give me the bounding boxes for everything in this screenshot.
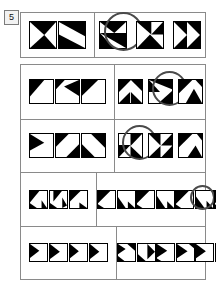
answer-option-c[interactable] xyxy=(178,79,203,104)
pattern-tile xyxy=(55,133,80,158)
answer-option-b[interactable] xyxy=(148,133,173,158)
pattern-tile xyxy=(215,243,216,262)
pattern-tile xyxy=(29,243,48,262)
pattern-tile xyxy=(214,190,216,209)
worksheet-page: 5 xyxy=(0,0,216,292)
stem-tile-group xyxy=(29,243,108,262)
puzzle-row-row-3 xyxy=(21,119,205,173)
answer-option-c[interactable] xyxy=(173,21,201,49)
pattern-tile xyxy=(118,79,143,104)
pattern-tile xyxy=(137,243,156,262)
pattern-tile xyxy=(136,21,164,49)
pattern-tile xyxy=(156,190,175,209)
pattern-tile xyxy=(136,190,155,209)
row-stem-area xyxy=(21,13,95,57)
answer-option-b[interactable] xyxy=(136,190,175,209)
puzzle-row-row-2 xyxy=(21,65,205,119)
puzzle-row-row-5 xyxy=(21,226,205,280)
answer-option-a[interactable] xyxy=(117,243,156,262)
answer-option-a[interactable] xyxy=(118,79,143,104)
pattern-tile xyxy=(69,243,88,262)
row-options-area xyxy=(115,120,205,173)
pattern-tile xyxy=(118,133,143,158)
stem-tile-group xyxy=(29,21,86,49)
row-options-area xyxy=(97,173,216,226)
row-stem-area xyxy=(21,120,115,173)
answer-option-b[interactable] xyxy=(156,243,195,262)
pattern-tile xyxy=(55,79,80,104)
answer-option-c[interactable] xyxy=(175,190,214,209)
stem-tile-group xyxy=(29,79,106,104)
pattern-tile xyxy=(178,133,203,158)
pattern-tile xyxy=(49,243,68,262)
pattern-tile xyxy=(58,21,86,49)
row-options-area xyxy=(117,227,216,280)
pattern-tile xyxy=(81,133,106,158)
pattern-tile xyxy=(69,190,88,209)
pattern-tile xyxy=(97,190,116,209)
pattern-tile xyxy=(89,243,108,262)
pattern-tile xyxy=(195,190,214,209)
pattern-tile xyxy=(173,21,201,49)
puzzle-row-row-4 xyxy=(21,172,205,226)
pattern-tile xyxy=(99,21,127,49)
pattern-tile xyxy=(81,79,106,104)
pattern-tile xyxy=(117,190,136,209)
answer-option-a[interactable] xyxy=(99,21,127,49)
stem-tile-group xyxy=(29,190,88,209)
pattern-tile xyxy=(29,79,54,104)
question-panel-row-1 xyxy=(20,12,206,58)
answer-option-b[interactable] xyxy=(148,79,173,104)
pattern-tile xyxy=(156,243,175,262)
row-options-area xyxy=(95,13,205,57)
pattern-tile xyxy=(148,79,173,104)
pattern-tile xyxy=(176,243,195,262)
pattern-tile xyxy=(49,190,68,209)
row-stem-area xyxy=(21,65,115,119)
answer-option-c[interactable] xyxy=(195,243,216,262)
pattern-tile xyxy=(29,190,48,209)
pattern-tile xyxy=(178,79,203,104)
row-options-area xyxy=(115,65,205,119)
answer-option-c[interactable] xyxy=(178,133,203,158)
answer-option-a[interactable] xyxy=(97,190,136,209)
pattern-tile xyxy=(175,190,194,209)
answer-option-a[interactable] xyxy=(118,133,143,158)
pattern-tile xyxy=(117,243,136,262)
pattern-tile xyxy=(29,133,54,158)
item-number-badge: 5 xyxy=(4,10,19,25)
row-stem-area xyxy=(21,227,117,280)
pattern-tile xyxy=(195,243,214,262)
puzzle-row-row-1 xyxy=(21,13,205,57)
answer-option-d[interactable] xyxy=(214,190,216,209)
answer-option-b[interactable] xyxy=(136,21,164,49)
pattern-tile xyxy=(29,21,57,49)
stem-tile-group xyxy=(29,133,106,158)
row-stem-area xyxy=(21,173,97,226)
question-panel-rows-2-5 xyxy=(20,64,206,280)
pattern-tile xyxy=(148,133,173,158)
